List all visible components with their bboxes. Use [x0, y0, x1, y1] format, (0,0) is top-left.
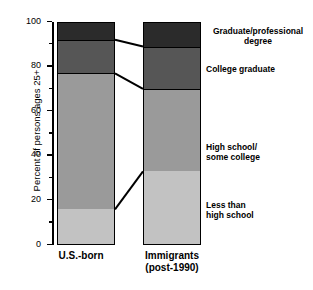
y-tick-40: 40	[47, 154, 52, 155]
y-tick-minor-50	[49, 132, 53, 133]
y-axis-line	[52, 22, 54, 245]
y-tick-60: 60	[47, 110, 52, 111]
y-tick-0: 0	[47, 244, 52, 245]
segment-high-school-some-college[interactable]	[57, 73, 115, 209]
connector-line	[115, 171, 143, 209]
y-tick-label-0: 0	[36, 239, 41, 249]
connector-line	[115, 73, 143, 89]
legend-label-line: High school/	[206, 142, 260, 152]
y-tick-minor-10	[49, 221, 53, 222]
bar-us-born[interactable]	[57, 22, 115, 245]
segment-less-than-high-school[interactable]	[57, 209, 115, 245]
y-tick-label-100: 100	[26, 16, 41, 26]
legend-label-line: Less than	[206, 200, 254, 210]
y-tick-100: 100	[47, 21, 52, 22]
x-label-line: Immigrants	[123, 250, 221, 262]
legend-label-line: some college	[206, 152, 260, 162]
x-label-immigrants: Immigrants (post-1990)	[123, 250, 221, 274]
legend-label-line: College graduate	[206, 64, 275, 74]
legend-label-line: high school	[206, 210, 254, 220]
x-label-line: (post-1990)	[123, 262, 221, 274]
y-tick-minor-70	[49, 88, 53, 89]
legend-graduate-professional-degree: Graduate/professional degree	[206, 26, 310, 46]
y-tick-label-80: 80	[31, 60, 41, 70]
legend-college-graduate: College graduate	[206, 64, 275, 74]
y-tick-20: 20	[47, 199, 52, 200]
segment-graduate-professional-degree[interactable]	[57, 22, 115, 40]
legend-label-line: Graduate/professional	[206, 26, 310, 36]
x-label-us-born: U.S.-born	[37, 250, 125, 262]
stacked-bar-chart: Percent of persons ages 25+ 0 20 40 60 8…	[0, 0, 313, 290]
segment-high-school-some-college[interactable]	[143, 89, 201, 172]
y-tick-minor-30	[49, 177, 53, 178]
legend-less-than-high-school: Less than high school	[206, 200, 254, 220]
y-tick-minor-90	[49, 43, 53, 44]
segment-less-than-high-school[interactable]	[143, 171, 201, 245]
plot-area: 0 20 40 60 80 100	[52, 22, 202, 245]
y-tick-label-60: 60	[31, 105, 41, 115]
legend-high-school-some-college: High school/ some college	[206, 142, 260, 162]
y-tick-label-20: 20	[31, 194, 41, 204]
legend-label-line: degree	[206, 36, 310, 46]
y-tick-label-40: 40	[31, 149, 41, 159]
bar-immigrants[interactable]	[143, 22, 201, 245]
segment-college-graduate[interactable]	[57, 40, 115, 73]
segment-graduate-professional-degree[interactable]	[143, 22, 201, 47]
segment-college-graduate[interactable]	[143, 47, 201, 89]
connector-line	[115, 40, 143, 47]
x-label-line: U.S.-born	[37, 250, 125, 262]
y-tick-80: 80	[47, 65, 52, 66]
